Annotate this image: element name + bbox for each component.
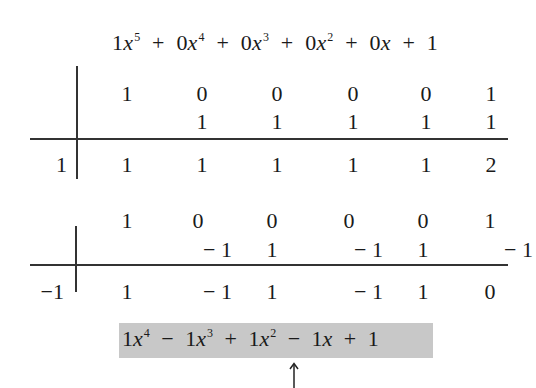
result: − 1 <box>323 279 383 305</box>
term-constant: 1 <box>427 30 438 55</box>
divisor: −1 <box>14 279 64 305</box>
term-x1: 0x <box>370 30 391 55</box>
remainder: 0 <box>470 279 510 305</box>
product: 1 <box>333 109 373 135</box>
quotient-polynomial: 1x4 − 1x3 + 1x2 − 1x + 1 <box>122 326 379 352</box>
result: 1 <box>252 279 292 305</box>
result: 1 <box>257 152 297 178</box>
term-constant: 1 <box>368 326 379 351</box>
result: 1 <box>406 152 446 178</box>
operator: + <box>402 30 415 55</box>
coefficient: 0 <box>252 208 292 234</box>
operator: + <box>281 30 294 55</box>
coefficient: 1 <box>470 208 510 234</box>
division-bar-vertical <box>76 66 78 179</box>
product: 1 <box>182 109 222 135</box>
term-x5: 1x5 <box>112 30 140 55</box>
result: − 1 <box>172 279 232 305</box>
dividend-polynomial: 1x5 + 0x4 + 0x3 + 0x2 + 0x + 1 <box>112 30 438 56</box>
term-x4: 0x4 <box>176 30 204 55</box>
operator: − <box>161 326 173 351</box>
coefficient: 1 <box>107 81 147 107</box>
coefficient: 0 <box>406 81 446 107</box>
result: 1 <box>107 152 147 178</box>
product: 1 <box>471 109 511 135</box>
coefficient: 0 <box>178 208 218 234</box>
term-x2: 0x2 <box>305 30 333 55</box>
result: 1 <box>403 279 443 305</box>
operator: + <box>344 326 356 351</box>
coefficient: 1 <box>471 81 511 107</box>
operator: + <box>152 30 165 55</box>
division-bar-vertical <box>75 226 77 292</box>
product: 1 <box>406 109 446 135</box>
operator: + <box>216 30 229 55</box>
coefficient: 0 <box>329 208 369 234</box>
term-x3: 0x3 <box>241 30 269 55</box>
term-x1: 1x <box>312 326 333 351</box>
product: − 1 <box>323 237 383 263</box>
result: 1 <box>333 152 373 178</box>
remainder: 2 <box>471 152 511 178</box>
divisor: 1 <box>17 152 67 178</box>
product: 1 <box>252 237 292 263</box>
operator: + <box>224 326 236 351</box>
coefficient: 0 <box>257 81 297 107</box>
product: 1 <box>257 109 297 135</box>
operator: − <box>288 326 300 351</box>
product: 1 <box>403 237 443 263</box>
coefficient: 0 <box>333 81 373 107</box>
term-x2: 1x2 <box>248 326 276 351</box>
result: 1 <box>107 279 147 305</box>
term-x3: 1x3 <box>185 326 213 351</box>
product: − 1 <box>473 237 533 263</box>
operator: + <box>345 30 358 55</box>
up-arrow-icon <box>288 362 300 388</box>
product: − 1 <box>172 237 232 263</box>
term-x4: 1x4 <box>122 326 150 351</box>
coefficient: 0 <box>403 208 443 234</box>
division-bar-horizontal <box>30 264 508 266</box>
division-bar-horizontal <box>30 138 508 140</box>
coefficient: 1 <box>107 208 147 234</box>
coefficient: 0 <box>182 81 222 107</box>
result: 1 <box>182 152 222 178</box>
